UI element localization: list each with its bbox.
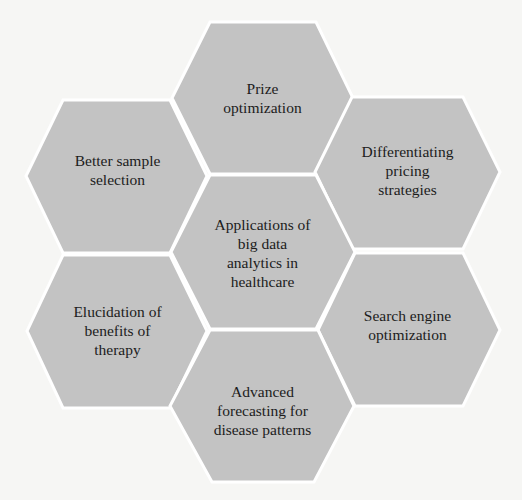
label-prize-optimization: Prize optimization bbox=[180, 60, 345, 136]
label-line: disease patterns bbox=[214, 420, 312, 439]
label-line: Search engine bbox=[364, 306, 451, 325]
label-line: optimization bbox=[364, 325, 451, 344]
label-search-engine-optimization: Search engine optimization bbox=[325, 295, 490, 355]
label-line: Prize bbox=[223, 79, 301, 98]
label-line: analytics in bbox=[215, 253, 311, 272]
label-line: big data bbox=[215, 234, 311, 253]
label-line: selection bbox=[75, 170, 161, 189]
label-line: healthcare bbox=[215, 272, 311, 291]
label-line: benefits of bbox=[73, 321, 161, 340]
label-line: optimization bbox=[223, 98, 301, 117]
label-differentiating-pricing: Differentiating pricing strategies bbox=[325, 125, 490, 215]
label-line: pricing bbox=[362, 161, 454, 180]
label-line: Elucidation of bbox=[73, 302, 161, 321]
label-advanced-forecasting: Advanced forecasting for disease pattern… bbox=[180, 370, 345, 450]
label-elucidation-of-therapy: Elucidation of benefits of therapy bbox=[35, 290, 200, 370]
label-line: Applications of bbox=[215, 215, 311, 234]
label-better-sample-selection: Better sample selection bbox=[35, 140, 200, 200]
label-line: Advanced bbox=[214, 382, 312, 401]
label-line: Differentiating bbox=[362, 142, 454, 161]
label-center-big-data-healthcare: Applications of big data analytics in he… bbox=[180, 210, 345, 296]
label-line: therapy bbox=[73, 340, 161, 359]
label-line: forecasting for bbox=[214, 401, 312, 420]
label-line: Better sample bbox=[75, 151, 161, 170]
label-line: strategies bbox=[362, 180, 454, 199]
